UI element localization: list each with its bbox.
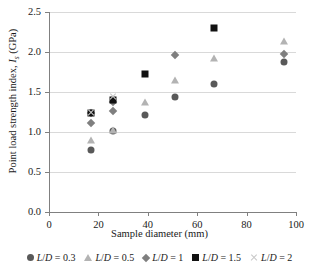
legend-item-label: L/D = 2 (261, 252, 292, 263)
circle-marker-icon (27, 254, 34, 261)
y-axis-tick-label: 2.0 (28, 47, 41, 58)
y-axis-tick-label: 0.5 (28, 167, 41, 178)
gridline (50, 172, 296, 173)
legend-item-label: L/D = 0.5 (95, 252, 134, 263)
legend-symbol-d: D (211, 252, 218, 263)
legend-item-diamond[interactable]: L/D = 1 (143, 252, 183, 263)
data-point (142, 112, 149, 119)
y-axis-tick (45, 92, 49, 93)
legend-value: = 1.5 (218, 252, 241, 263)
data-point (141, 98, 149, 105)
triangle-marker-icon (84, 254, 92, 261)
x-axis-title: Sample diameter (mm) (0, 228, 319, 240)
data-point (87, 137, 95, 144)
square-marker-icon (192, 254, 199, 261)
data-point (109, 93, 117, 101)
data-point (87, 119, 95, 127)
y-axis-tick-label: 2.5 (28, 7, 41, 18)
y-axis-title-text: Point load strength index, (7, 63, 18, 174)
y-axis-tick (45, 172, 49, 173)
data-point (280, 59, 287, 66)
x-axis-tick (98, 212, 99, 216)
data-point (87, 108, 95, 116)
plot-area (49, 12, 296, 212)
data-point (109, 107, 117, 115)
legend-item-label: L/D = 1 (152, 252, 183, 263)
legend-item-circle[interactable]: L/D = 0.3 (27, 252, 76, 263)
y-axis-tick-label: 1.0 (28, 127, 41, 138)
y-axis-tick (45, 52, 49, 53)
gridline (50, 132, 296, 133)
legend-item-x[interactable]: L/D = 2 (250, 252, 292, 263)
x-axis-tick (49, 212, 50, 216)
data-point (279, 49, 287, 57)
x-axis-tick (296, 212, 297, 216)
legend-symbol-d: D (160, 252, 167, 263)
legend-symbol-d: D (269, 252, 276, 263)
x-axis-tick (148, 212, 149, 216)
y-axis-tick (45, 132, 49, 133)
data-point (280, 37, 288, 44)
y-axis-title: Point load strength index, Is (GPa) (7, 0, 23, 208)
x-axis-line (49, 212, 296, 213)
x-axis-tick (247, 212, 248, 216)
data-point (171, 77, 179, 84)
y-axis-tick-label: 1.5 (28, 87, 41, 98)
data-point (142, 70, 149, 77)
legend-item-square[interactable]: L/D = 1.5 (192, 252, 241, 263)
legend-value: = 0.5 (111, 252, 134, 263)
data-point (211, 25, 218, 32)
chart-legend: L/D = 0.3L/D = 0.5L/D = 1L/D = 1.5L/D = … (0, 252, 319, 263)
y-axis-title-symbol: I (7, 59, 18, 63)
legend-value: = 0.3 (52, 252, 75, 263)
data-point (87, 147, 94, 154)
legend-item-label: L/D = 0.3 (37, 252, 76, 263)
gridline (50, 12, 296, 13)
y-axis-line (49, 12, 50, 212)
x-axis-tick (197, 212, 198, 216)
legend-value: = 1 (168, 252, 184, 263)
legend-symbol-d: D (104, 252, 111, 263)
legend-value: = 2 (277, 252, 293, 263)
data-point (211, 81, 218, 88)
y-axis-title-unit: (GPa) (7, 29, 18, 57)
data-point (210, 55, 218, 62)
data-point (109, 127, 117, 134)
y-axis-tick-label: 0.0 (28, 207, 41, 218)
y-axis-title-subscript: s (12, 56, 21, 59)
chart-figure: 0.00.51.01.52.02.5 020406080100 Sample d… (0, 0, 319, 274)
legend-item-label: L/D = 1.5 (202, 252, 241, 263)
legend-item-triangle[interactable]: L/D = 0.5 (84, 252, 134, 263)
y-axis-tick (45, 12, 49, 13)
data-point (171, 93, 178, 100)
diamond-marker-icon (142, 253, 150, 261)
x-marker-icon (250, 254, 258, 262)
